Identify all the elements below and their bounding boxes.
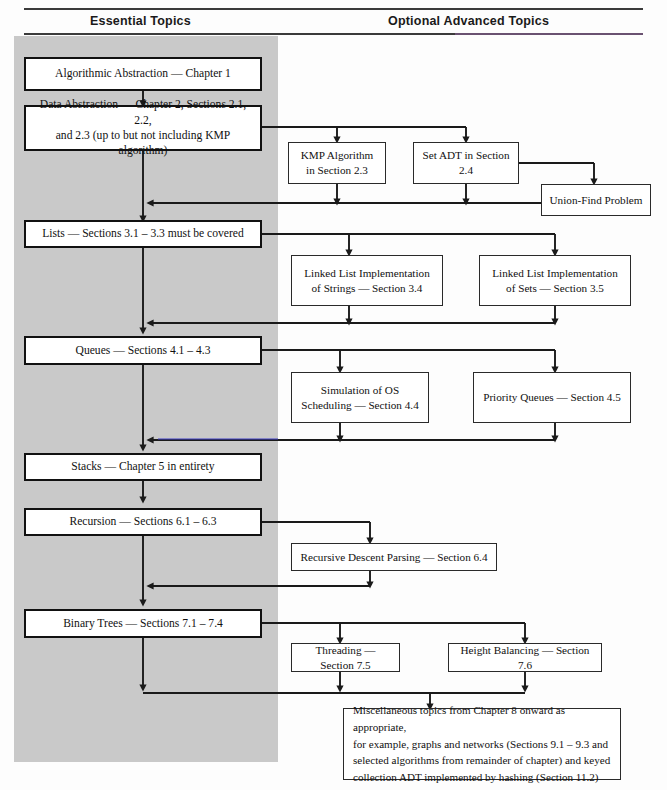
header-essential-topics: Essential Topics xyxy=(90,14,191,28)
node-label: Recursive Descent Parsing — Section 6.4 xyxy=(300,550,487,565)
node-algorithmic-abstraction[interactable]: Algorithmic Abstraction — Chapter 1 xyxy=(24,57,262,91)
node-label: Lists — Sections 3.1 – 3.3 must be cover… xyxy=(42,226,244,241)
node-label: Algorithmic Abstraction — Chapter 1 xyxy=(55,66,231,81)
node-label: Data Abstraction — Chapter 2, Sections 2… xyxy=(32,97,254,158)
node-miscellaneous-topics[interactable]: Miscellaneous topics from Chapter 8 onwa… xyxy=(343,708,621,780)
node-recursive-descent-parsing[interactable]: Recursive Descent Parsing — Section 6.4 xyxy=(291,543,497,571)
node-label: Height Balancing — Section 7.6 xyxy=(455,643,595,673)
node-lists[interactable]: Lists — Sections 3.1 – 3.3 must be cover… xyxy=(24,220,262,248)
node-simulation-os-scheduling[interactable]: Simulation of OS Scheduling — Section 4.… xyxy=(291,372,429,423)
node-label: Set ADT in Section 2.4 xyxy=(420,148,512,178)
node-priority-queues[interactable]: Priority Queues — Section 4.5 xyxy=(473,372,631,423)
node-label: KMP Algorithm in Section 2.3 xyxy=(301,148,374,178)
top-rule xyxy=(24,8,643,10)
node-label: Priority Queues — Section 4.5 xyxy=(483,390,621,405)
node-data-abstraction[interactable]: Data Abstraction — Chapter 2, Sections 2… xyxy=(24,105,262,151)
node-threading[interactable]: Threading — Section 7.5 xyxy=(291,643,400,672)
node-kmp-algorithm[interactable]: KMP Algorithm in Section 2.3 xyxy=(288,142,386,184)
node-label: Linked List Implementation of Strings — … xyxy=(304,266,430,296)
node-union-find-problem[interactable]: Union-Find Problem xyxy=(541,184,651,216)
node-label: Simulation of OS Scheduling — Section 4.… xyxy=(301,383,418,413)
node-label: Recursion — Sections 6.1 – 6.3 xyxy=(69,514,216,529)
node-binary-trees[interactable]: Binary Trees — Sections 7.1 – 7.4 xyxy=(24,609,262,638)
header-underline-rule xyxy=(24,33,643,35)
node-label: Union-Find Problem xyxy=(550,193,643,208)
node-stacks[interactable]: Stacks — Chapter 5 in entirety xyxy=(24,453,262,481)
node-label: Threading — Section 7.5 xyxy=(298,643,393,673)
node-set-adt[interactable]: Set ADT in Section 2.4 xyxy=(413,142,519,184)
node-queues[interactable]: Queues — Sections 4.1 – 4.3 xyxy=(24,336,262,365)
node-label: Binary Trees — Sections 7.1 – 7.4 xyxy=(63,616,223,631)
node-label: Linked List Implementation of Sets — Sec… xyxy=(492,266,618,296)
node-linked-list-sets[interactable]: Linked List Implementation of Sets — Sec… xyxy=(479,255,631,306)
node-label: Queues — Sections 4.1 – 4.3 xyxy=(76,343,211,358)
flowchart-canvas: Essential Topics Optional Advanced Topic… xyxy=(0,0,667,790)
node-linked-list-strings[interactable]: Linked List Implementation of Strings — … xyxy=(291,255,443,306)
node-recursion[interactable]: Recursion — Sections 6.1 – 6.3 xyxy=(24,508,262,536)
node-label: Stacks — Chapter 5 in entirety xyxy=(71,459,214,474)
header-optional-advanced-topics: Optional Advanced Topics xyxy=(388,14,549,28)
node-height-balancing[interactable]: Height Balancing — Section 7.6 xyxy=(448,643,602,672)
node-label: Miscellaneous topics from Chapter 8 onwa… xyxy=(353,702,611,785)
